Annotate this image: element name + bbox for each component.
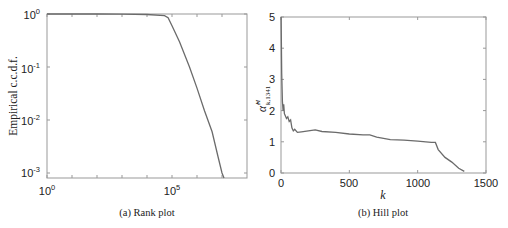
rank-xtick-0: 100 xyxy=(39,183,55,197)
hill-ytick-5: 5 xyxy=(269,11,275,23)
svg-text:k,1341: k,1341 xyxy=(264,85,272,105)
figure: 100 10-1 10-2 10-3 100 105 Empirical c.c… xyxy=(0,0,508,228)
rank-ytick-3: 10-3 xyxy=(21,165,40,179)
rank-caption: (a) Rank plot xyxy=(119,207,174,219)
rank-plot-line xyxy=(47,14,224,178)
rank-ytick-2: 10-2 xyxy=(21,113,40,127)
svg-text:H: H xyxy=(254,99,262,106)
hill-ytick-0: 0 xyxy=(269,167,275,179)
hill-xlabel: k xyxy=(380,188,386,202)
hill-ytick-2: 2 xyxy=(269,105,275,117)
hill-plot-ticks xyxy=(281,17,486,173)
rank-xtick-5: 105 xyxy=(164,183,180,197)
hill-xtick-0: 0 xyxy=(278,177,284,189)
hill-plot-frame xyxy=(281,17,486,173)
rank-plot: 100 10-1 10-2 10-3 100 105 Empirical c.c… xyxy=(7,7,247,219)
hill-ytick-4: 4 xyxy=(269,42,275,54)
rank-ylabel: Empirical c.c.d.f. xyxy=(7,56,20,136)
hill-xtick-500: 500 xyxy=(340,177,358,189)
rank-ytick-0: 100 xyxy=(24,7,40,21)
hill-ytick-1: 1 xyxy=(269,136,275,148)
hill-plot-line xyxy=(281,17,464,171)
hill-xtick-1500: 1500 xyxy=(474,177,498,189)
rank-ytick-1: 10-1 xyxy=(21,61,40,75)
hill-ytick-3: 3 xyxy=(269,73,275,85)
hill-caption: (b) Hill plot xyxy=(358,207,408,219)
hill-plot: 0 1 2 3 4 5 0 500 1000 1500 k α̂ H k,134… xyxy=(254,11,498,219)
hill-xtick-1000: 1000 xyxy=(406,177,430,189)
